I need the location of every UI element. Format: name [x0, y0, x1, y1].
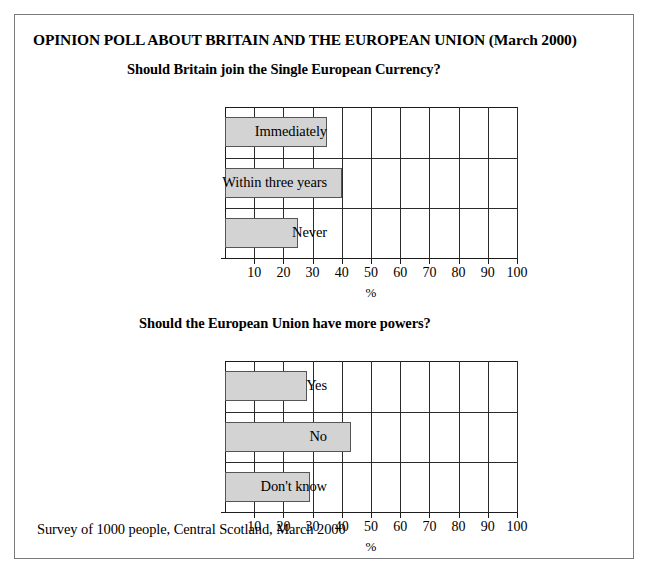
bar — [225, 422, 351, 452]
tick-mark — [400, 513, 401, 518]
tick-mark — [517, 259, 518, 264]
footer-note: Survey of 1000 people, Central Scotland,… — [37, 521, 346, 538]
tick-mark — [313, 513, 314, 518]
tick-label: 80 — [452, 519, 466, 535]
tick-label: 40 — [335, 265, 349, 281]
tick-label: 100 — [507, 519, 528, 535]
tick-mark — [459, 259, 460, 264]
tick-mark — [488, 259, 489, 264]
chart-1: 102030405060708090100% ImmediatelyWithin… — [15, 91, 635, 306]
tick-mark — [254, 513, 255, 518]
x-axis-label: % — [366, 285, 377, 301]
tick-label: 30 — [306, 265, 320, 281]
tick-mark — [342, 513, 343, 518]
tick-label: 90 — [481, 265, 495, 281]
tick-label: 80 — [452, 265, 466, 281]
tick-mark — [488, 513, 489, 518]
bar-row — [225, 412, 517, 463]
tick-mark — [459, 513, 460, 518]
gridline-vertical — [517, 361, 518, 513]
category-label: Within three years — [222, 174, 327, 191]
tick-label: 50 — [364, 519, 378, 535]
chart-1-title: Should Britain join the Single European … — [127, 61, 441, 78]
tick-label: 70 — [422, 519, 436, 535]
tick-label: 90 — [481, 519, 495, 535]
chart-2-title: Should the European Union have more powe… — [139, 315, 431, 332]
category-label: No — [309, 428, 327, 445]
tick-mark — [429, 259, 430, 264]
tick-label: 10 — [247, 265, 261, 281]
tick-mark — [342, 259, 343, 264]
tick-mark — [371, 513, 372, 518]
tick-mark — [429, 513, 430, 518]
bar — [225, 371, 307, 401]
bar — [225, 218, 298, 248]
category-label: Yes — [306, 377, 327, 394]
poster-frame: OPINION POLL ABOUT BRITAIN AND THE EUROP… — [14, 14, 634, 559]
bar-row — [225, 361, 517, 412]
page-title: OPINION POLL ABOUT BRITAIN AND THE EUROP… — [33, 31, 577, 49]
tick-label: 60 — [393, 519, 407, 535]
tick-label: 20 — [276, 265, 290, 281]
gridline-vertical — [517, 107, 518, 259]
tick-label: 70 — [422, 265, 436, 281]
x-axis-label: % — [366, 539, 377, 555]
tick-mark — [517, 513, 518, 518]
bar-row — [225, 208, 517, 259]
tick-mark — [313, 259, 314, 264]
tick-label: 60 — [393, 265, 407, 281]
category-label: Don't know — [261, 478, 327, 495]
tick-label: 50 — [364, 265, 378, 281]
category-label: Immediately — [255, 123, 327, 140]
tick-mark — [371, 259, 372, 264]
tick-label: 100 — [507, 265, 528, 281]
category-label: Never — [292, 224, 327, 241]
tick-mark — [283, 513, 284, 518]
tick-mark — [254, 259, 255, 264]
tick-mark — [283, 259, 284, 264]
tick-mark — [400, 259, 401, 264]
chart-1-x-axis: 102030405060708090100% — [225, 259, 517, 281]
